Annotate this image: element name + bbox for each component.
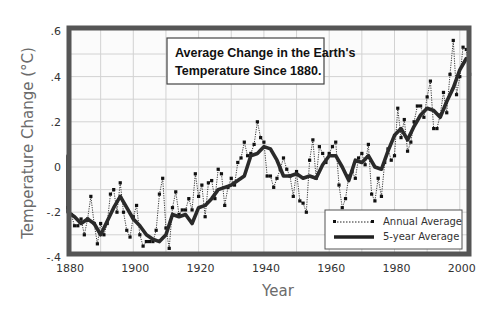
x-tick-label: 1880 xyxy=(56,262,84,275)
annual-average-marker xyxy=(141,245,144,248)
annual-average-marker xyxy=(285,168,288,171)
annual-average-marker xyxy=(236,161,239,164)
annual-average-marker xyxy=(135,204,138,207)
annual-average-marker xyxy=(399,136,402,139)
x-tick-label: 1900 xyxy=(121,262,149,275)
annual-average-marker xyxy=(220,172,223,175)
annual-average-marker xyxy=(269,174,272,177)
annual-average-marker xyxy=(207,181,210,184)
annual-average-marker xyxy=(360,152,363,155)
annual-average-marker xyxy=(445,111,448,114)
annual-average-marker xyxy=(292,195,295,198)
annual-average-marker xyxy=(406,150,409,153)
annual-average-marker xyxy=(187,197,190,200)
annual-average-marker xyxy=(155,229,158,232)
annual-average-marker xyxy=(239,156,242,159)
x-tick-label: 2000 xyxy=(448,262,476,275)
temperature-change-chart: Average Change in the Earth's Temperatur… xyxy=(0,0,491,320)
annual-average-marker xyxy=(373,199,376,202)
annual-average-marker xyxy=(377,177,380,180)
annual-average-marker xyxy=(262,141,265,144)
annual-average-marker xyxy=(435,127,438,130)
x-tick-label: 1940 xyxy=(252,262,280,275)
annual-average-marker xyxy=(184,208,187,211)
annual-average-marker xyxy=(148,240,151,243)
annual-average-marker xyxy=(194,172,197,175)
legend-five-year-label: 5-year Average xyxy=(383,231,459,242)
annual-average-marker xyxy=(259,136,262,139)
annual-average-marker xyxy=(364,163,367,166)
x-axis-ticks: 1880190019201940196019802000 xyxy=(56,262,476,275)
annual-average-marker xyxy=(230,177,233,180)
annual-average-marker xyxy=(197,195,200,198)
annual-average-marker xyxy=(422,116,425,119)
annual-average-marker xyxy=(243,141,246,144)
x-tick-label: 1920 xyxy=(187,262,215,275)
annual-average-marker xyxy=(331,145,334,148)
annual-average-marker xyxy=(298,199,301,202)
legend-annual-label: Annual Average xyxy=(383,216,462,227)
annual-average-marker xyxy=(390,159,393,162)
annual-average-marker xyxy=(145,240,148,243)
y-axis-title: Temperature Change (°C) xyxy=(19,47,37,240)
chart-title-line-2: Temperature Since 1880. xyxy=(175,64,321,78)
annual-average-marker xyxy=(125,229,128,232)
annual-average-marker xyxy=(109,193,112,196)
y-tick-label: -.2 xyxy=(47,206,61,219)
annual-average-marker xyxy=(282,156,285,159)
annual-average-marker xyxy=(344,197,347,200)
legend: Annual Average 5-year Average xyxy=(325,210,462,249)
x-tick-label: 1980 xyxy=(383,262,411,275)
annual-average-marker xyxy=(174,190,177,193)
annual-average-marker xyxy=(171,206,174,209)
annual-average-marker xyxy=(334,141,337,144)
annual-average-marker xyxy=(341,206,344,209)
annual-average-marker xyxy=(89,195,92,198)
annual-average-marker xyxy=(461,46,464,49)
annual-average-marker xyxy=(429,80,432,83)
x-tick-label: 1960 xyxy=(317,262,345,275)
annual-average-marker xyxy=(308,159,311,162)
annual-average-marker xyxy=(190,208,193,211)
annual-average-marker xyxy=(256,120,259,123)
annual-average-marker xyxy=(455,93,458,96)
annual-average-marker xyxy=(119,181,122,184)
annual-average-marker xyxy=(128,235,131,238)
annual-average-marker xyxy=(266,174,269,177)
annual-average-marker xyxy=(409,141,412,144)
annual-average-marker xyxy=(432,127,435,130)
annual-average-marker xyxy=(354,177,357,180)
annual-average-marker xyxy=(305,211,308,214)
annual-average-marker xyxy=(223,204,226,207)
annual-average-marker xyxy=(158,193,161,196)
y-tick-label: .4 xyxy=(51,71,62,84)
annual-average-marker xyxy=(442,91,445,94)
annual-average-marker xyxy=(115,211,118,214)
annual-average-marker xyxy=(200,183,203,186)
annual-average-marker xyxy=(380,195,383,198)
annual-average-marker xyxy=(253,143,256,146)
y-tick-label: .6 xyxy=(51,25,62,38)
annual-average-marker xyxy=(426,95,429,98)
annual-average-marker xyxy=(370,193,373,196)
annual-average-marker xyxy=(452,39,455,42)
annual-average-marker xyxy=(168,247,171,250)
y-tick-label: 0 xyxy=(54,161,61,174)
annual-average-marker xyxy=(419,104,422,107)
annual-average-marker xyxy=(301,202,304,205)
annual-average-marker xyxy=(181,208,184,211)
x-axis-title: Year xyxy=(261,282,295,300)
annual-average-marker xyxy=(76,224,79,227)
annual-average-marker xyxy=(204,215,207,218)
annual-average-marker xyxy=(122,211,125,214)
annual-average-marker xyxy=(337,183,340,186)
annual-average-marker xyxy=(393,154,396,157)
annual-average-marker xyxy=(448,73,451,76)
annual-average-marker xyxy=(83,233,86,236)
y-tick-label: .2 xyxy=(51,116,62,129)
annual-average-marker xyxy=(96,242,99,245)
annual-average-marker xyxy=(161,177,164,180)
annual-average-marker xyxy=(217,168,220,171)
annual-average-marker xyxy=(311,138,314,141)
annual-average-marker xyxy=(416,104,419,107)
